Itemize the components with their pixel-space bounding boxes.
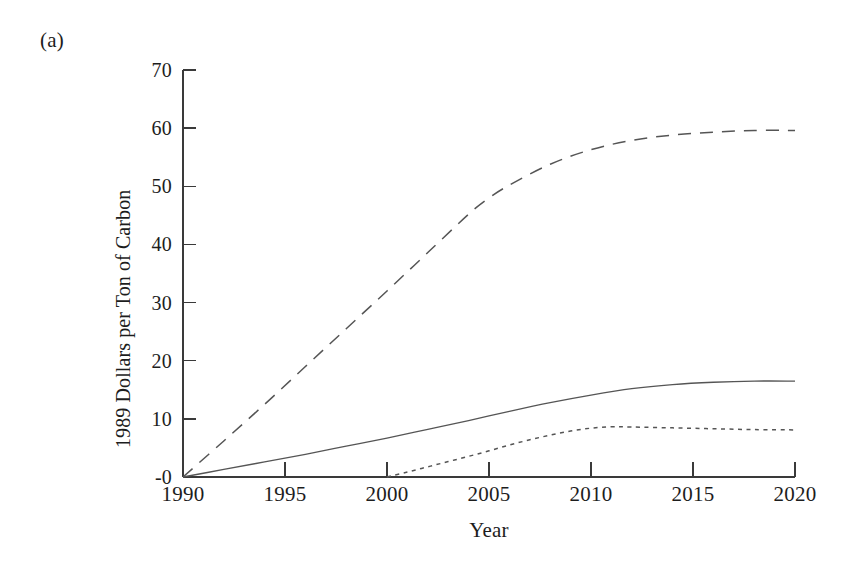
figure-container: (a) 1989 Dollars per Ton of Carbon Year … (0, 0, 860, 574)
data-series-group (183, 130, 795, 477)
plot-area (0, 0, 860, 574)
series-dashed-upper (183, 130, 795, 477)
